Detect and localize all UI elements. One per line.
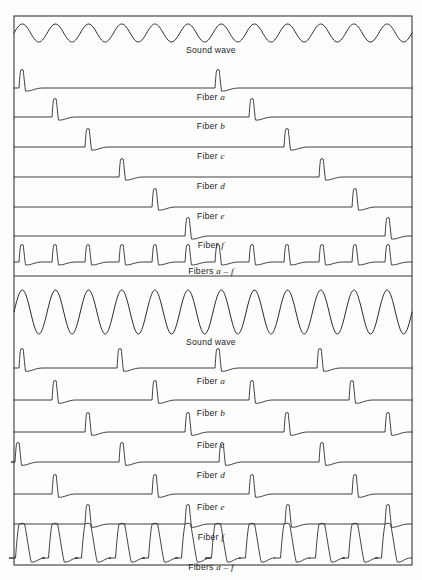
trace-top-fiber-f [14,218,412,240]
trace-bottom-fiber-c [14,413,412,436]
trace-top-fiber-c [14,129,412,151]
trace-top-fiber-e [14,189,412,211]
trace-top-fiber-a [14,70,412,92]
trace-bottom-fiber-d [11,443,412,466]
trace-paths-group [9,24,412,562]
trace-top-fiber-b [14,99,412,121]
trace-top-fiber-d [14,159,412,181]
trace-top-fibers-combined [14,245,412,265]
trace-bottom-fibers-combined [9,523,412,562]
trace-bottom-fiber-b [14,381,412,404]
trace-top-sound-wave [14,24,412,42]
trace-bottom-fiber-e [14,475,412,498]
trace-bottom-sound-wave [14,290,412,334]
figure-container: Sound waveFiber aFiber bFiber cFiber dFi… [0,0,422,580]
figure-canvas [0,0,422,580]
trace-bottom-fiber-a [14,349,412,372]
